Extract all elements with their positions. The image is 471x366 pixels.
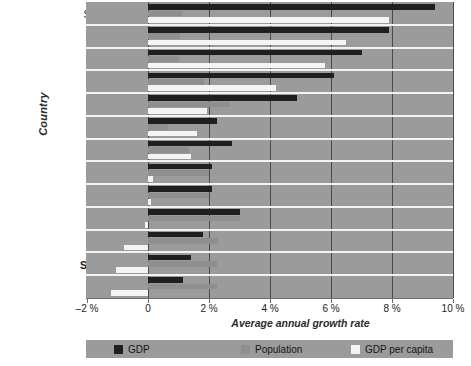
legend-label: GDP per capita	[365, 344, 433, 355]
legend-swatch-icon	[351, 345, 360, 354]
legend-swatch-icon	[241, 345, 250, 354]
chart-figure: Country South KoreaTaiwanSingaporeThaila…	[0, 0, 471, 366]
bar	[116, 267, 148, 273]
bar	[148, 85, 276, 91]
row-separator	[86, 24, 453, 26]
bar	[148, 108, 207, 114]
bar	[148, 209, 240, 215]
bar	[148, 27, 389, 33]
x-axis-title: Average annual growth rate	[148, 317, 453, 329]
row-separator	[86, 115, 453, 117]
bar	[124, 245, 148, 251]
bar	[148, 238, 218, 244]
legend-swatch-icon	[114, 345, 123, 354]
grid-line	[453, 2, 454, 298]
bar	[148, 147, 189, 153]
bar	[148, 216, 240, 222]
legend-item: GDP per capita	[351, 344, 433, 355]
x-axis-tick-label: 8 %	[372, 303, 412, 314]
x-axis-tick-label: –2 %	[67, 303, 107, 314]
bar	[148, 11, 182, 17]
row-separator	[86, 138, 453, 140]
bar	[148, 124, 168, 130]
bar	[148, 186, 212, 192]
bar	[148, 73, 334, 79]
bar	[148, 102, 230, 108]
legend-item: Population	[241, 344, 302, 355]
x-axis-tick-label: 4 %	[250, 303, 290, 314]
bar	[148, 277, 183, 283]
x-axis-tick-label: 10 %	[433, 303, 471, 314]
bar	[148, 255, 191, 261]
bar	[148, 193, 209, 199]
bar	[148, 118, 217, 124]
row-separator	[86, 274, 453, 276]
bar	[148, 164, 212, 170]
bar	[148, 131, 197, 137]
bar	[148, 199, 151, 205]
row-separator	[86, 206, 453, 208]
x-axis-tick-label: 6 %	[311, 303, 351, 314]
x-axis-tick-label: 2 %	[189, 303, 229, 314]
bar	[148, 170, 209, 176]
bar	[148, 95, 297, 101]
bar	[145, 222, 148, 228]
bar	[111, 290, 148, 296]
legend-label: Population	[255, 344, 302, 355]
x-axis-tick-label: 0	[128, 303, 168, 314]
bar	[148, 232, 203, 238]
row-separator	[86, 160, 453, 162]
bar	[148, 33, 180, 39]
legend-item: GDP	[114, 344, 150, 355]
bar	[148, 17, 389, 23]
chart-legend: GDPPopulationGDP per capita	[86, 340, 453, 358]
row-separator	[86, 47, 453, 49]
row-separator	[86, 183, 453, 185]
bar	[148, 63, 325, 69]
bar	[148, 50, 362, 56]
bar	[148, 284, 217, 290]
row-separator	[86, 229, 453, 231]
row-separator	[86, 69, 453, 71]
bar	[148, 79, 204, 85]
legend-label: GDP	[128, 344, 150, 355]
bar	[148, 141, 232, 147]
bar	[148, 40, 346, 46]
bar	[148, 261, 217, 267]
bar	[148, 4, 435, 10]
bar	[148, 154, 191, 160]
bar	[148, 176, 153, 182]
row-separator	[86, 92, 453, 94]
bar	[148, 56, 179, 62]
row-separator	[86, 251, 453, 253]
